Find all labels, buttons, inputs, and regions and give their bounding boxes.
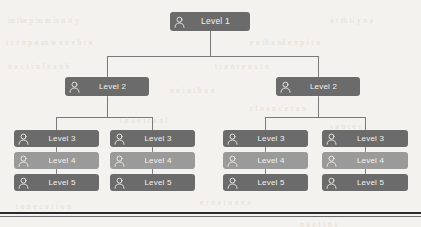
node-l5a[interactable]: Level 5 [14,174,99,191]
node-l3b[interactable]: Level 3 [110,130,195,147]
user-icon [225,130,240,147]
user-icon [67,77,82,96]
node-label: Level 3 [127,135,195,143]
node-l4b[interactable]: Level 4 [110,152,195,169]
node-l3d[interactable]: Level 3 [322,130,408,147]
user-icon [16,152,31,169]
node-label: Level 4 [31,157,99,165]
node-l5c[interactable]: Level 5 [223,174,308,191]
connector-lines [0,0,421,227]
user-icon [112,130,127,147]
bottom-divider-rule-secondary [0,216,421,217]
node-l2b[interactable]: Level 2 [276,77,360,96]
user-icon [225,152,240,169]
bottom-divider-rule [0,212,421,214]
node-l3c[interactable]: Level 3 [223,130,308,147]
node-label: Level 4 [240,157,308,165]
node-label: Level 4 [127,157,195,165]
node-l2a[interactable]: Level 2 [65,77,149,96]
node-label: Level 3 [240,135,308,143]
node-l1[interactable]: Level 1 [170,12,250,31]
user-icon [278,77,293,96]
node-l4d[interactable]: Level 4 [322,152,408,169]
user-icon [324,152,339,169]
user-icon [112,152,127,169]
node-label: Level 3 [339,135,408,143]
user-icon [16,174,31,191]
node-label: Level 3 [31,135,99,143]
user-icon [172,12,187,31]
node-l3a[interactable]: Level 3 [14,130,99,147]
node-label: Level 2 [82,83,149,91]
node-label: Level 5 [339,179,408,187]
node-label: Level 5 [240,179,308,187]
node-label: Level 5 [31,179,99,187]
node-l5d[interactable]: Level 5 [322,174,408,191]
node-label: Level 1 [187,17,250,26]
node-l4c[interactable]: Level 4 [223,152,308,169]
node-label: Level 5 [127,179,195,187]
user-icon [16,130,31,147]
user-icon [324,130,339,147]
user-icon [112,174,127,191]
diagram-canvas: in the p in m is n it yt n the i n ic of… [0,0,421,227]
node-l4a[interactable]: Level 4 [14,152,99,169]
node-label: Level 4 [339,157,408,165]
node-l5b[interactable]: Level 5 [110,174,195,191]
node-label: Level 2 [293,83,360,91]
user-icon [225,174,240,191]
user-icon [324,174,339,191]
